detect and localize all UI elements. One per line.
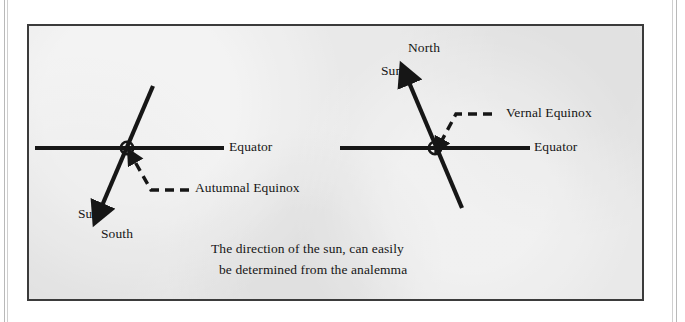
right-equinox-leader — [441, 114, 492, 142]
right-pole-label-north: North — [408, 40, 440, 56]
right-equinox-label: Vernal Equinox — [506, 105, 592, 121]
caption-line-2: be determined from the analemma — [219, 262, 407, 278]
left-sun-label: Sun — [78, 206, 99, 222]
left-pole-label-south: South — [101, 226, 133, 242]
page-rule-left-outer — [4, 0, 5, 322]
right-equator-label: Equator — [534, 139, 577, 155]
left-equinox-label: Autumnal Equinox — [195, 180, 300, 196]
page-rule-right-inner — [672, 0, 673, 322]
left-equinox-leader — [134, 160, 189, 190]
page-rule-left-inner — [7, 0, 8, 322]
right-sun-direction-line — [408, 80, 462, 208]
analemma-direction-diagram — [29, 26, 642, 299]
right-sun-label: Sun — [381, 63, 402, 79]
caption-line-1: The direction of the sun, can easily — [211, 241, 404, 257]
left-equator-label: Equator — [229, 139, 272, 155]
figure-frame: Equator Autumnal Equinox Sun South North… — [27, 24, 644, 301]
figure-page: Equator Autumnal Equinox Sun South North… — [0, 0, 685, 322]
page-rule-right-outer — [676, 0, 677, 322]
right-panel-group — [340, 80, 530, 208]
